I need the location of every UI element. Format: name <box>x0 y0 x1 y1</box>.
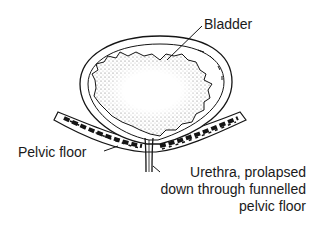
bladder-label: Bladder <box>204 16 252 32</box>
urethra-label-line-3: pelvic floor <box>160 198 306 215</box>
urethra-label-line-2: down through funnelled <box>160 181 306 198</box>
pelvic-floor-label: Pelvic floor <box>18 144 86 160</box>
urethra-leader-line <box>153 166 160 172</box>
pelvic-floor-leader-line <box>104 146 118 151</box>
urethra-label: Urethra, prolapsed down through funnelle… <box>160 164 306 215</box>
urethra-label-line-1: Urethra, prolapsed <box>160 164 306 181</box>
